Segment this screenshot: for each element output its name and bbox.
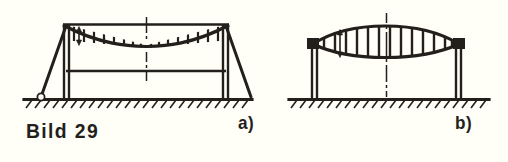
right-tower: [223, 24, 228, 99]
figure-page: Bild 29 a) b): [0, 0, 508, 162]
dimension-arrow-b: [337, 30, 342, 58]
dimension-arrow-a: [76, 27, 81, 46]
diagram-a: [24, 17, 252, 108]
left-anchor-stay: [41, 26, 66, 97]
figure-caption: Bild 29: [26, 119, 99, 143]
right-column: [456, 46, 461, 99]
ground-hatching-a: [26, 100, 248, 108]
hatch-lens: [324, 16, 452, 68]
right-anchor-stay: [226, 26, 251, 97]
pin-support: [37, 93, 44, 100]
subfigure-label-b: b): [455, 112, 472, 134]
diagram-b: [289, 13, 489, 108]
left-tower: [64, 24, 69, 99]
left-column: [312, 46, 317, 99]
ground-hatching-b: [291, 100, 486, 108]
subfigure-label-a: a): [238, 112, 254, 134]
